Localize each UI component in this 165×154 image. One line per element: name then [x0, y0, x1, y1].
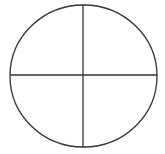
quadrant-circle-diagram: [0, 0, 165, 154]
diagram-canvas: [0, 0, 165, 154]
